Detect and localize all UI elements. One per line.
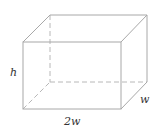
box-diagram: h 2w w	[0, 0, 159, 133]
depth-label: w	[140, 93, 150, 106]
length-label: 2w	[63, 115, 81, 128]
height-label: h	[10, 66, 17, 79]
hidden-edge-bottom-left-depth	[23, 82, 50, 109]
top-face-edges	[23, 15, 147, 42]
front-face	[23, 42, 121, 109]
